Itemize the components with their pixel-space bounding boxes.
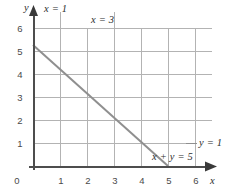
x-tick-label-4: 4 [135, 176, 149, 186]
origin-tick-label-0: 0 [10, 176, 24, 186]
annotation-y-equals-1: y = 1 [199, 138, 222, 149]
x-axis-name-label: x [210, 176, 215, 187]
up-arrow-icon [29, 5, 38, 16]
y-axis-name-label: y [24, 3, 29, 14]
y-tick-label-2: 2 [13, 116, 27, 126]
x-tick-label-3: 3 [108, 176, 122, 186]
x-tick-label-1: 1 [54, 176, 68, 186]
annotation-x-plus-y-equals-5: x + y = 5 [152, 152, 193, 163]
x-tick-label-6: 6 [189, 176, 203, 186]
coordinate-graph-figure: 6 5 4 3 2 1 0 1 2 3 4 5 6 y x x = 1 x = … [0, 0, 234, 194]
line-x-plus-y-equals-5 [33, 45, 168, 166]
y-tick-label-1: 1 [13, 139, 27, 149]
x-axis [29, 162, 217, 172]
right-arrow-icon [205, 162, 217, 172]
y-tick-label-4: 4 [13, 70, 27, 80]
y-axis [29, 5, 38, 170]
y-tick-label-5: 5 [13, 47, 27, 57]
x-tick-label-5: 5 [162, 176, 176, 186]
x-tick-label-2: 2 [81, 176, 95, 186]
y-tick-label-6: 6 [13, 24, 27, 34]
y-tick-label-3: 3 [13, 93, 27, 103]
annotation-x-equals-3: x = 3 [91, 15, 114, 26]
annotation-x-equals-1: x = 1 [44, 4, 67, 15]
graph-canvas [0, 0, 234, 194]
